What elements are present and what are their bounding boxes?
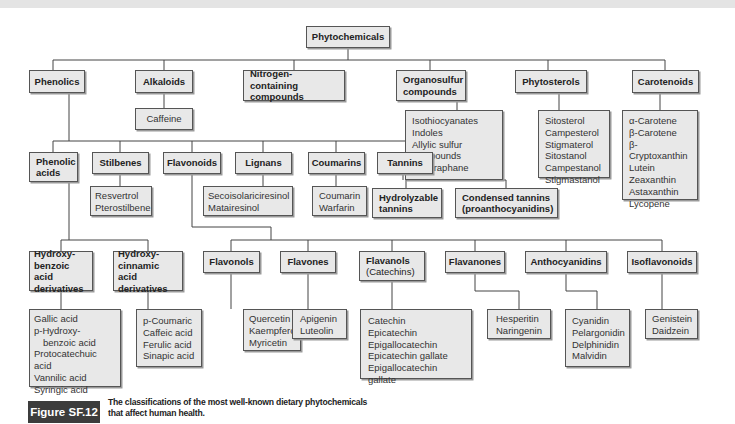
list-item: Daidzein [652,325,691,337]
node-flavonols: Flavonols [203,251,260,273]
list-item: Epigallocatechin gallate [368,362,464,386]
list-hydroxybenzoic-examples: Gallic acid p-Hydroxy- benzoic acid Prot… [29,309,121,387]
node-label: Flavonols [209,256,253,268]
list-lignan-examples: Secoisolariciresinol Matairesinol [203,186,293,216]
list-item: Myricetin [249,337,295,349]
node-label: Isoflavonoids [631,256,692,268]
list-anthocyanidin-examples: Cyanidin Pelargonidin Delphinidin Malvid… [565,309,630,367]
node-label-line: derivatives [118,283,178,295]
list-item: Pelargonidin [572,327,623,339]
node-coumarins: Coumarins [308,152,365,174]
list-item: Sitosterol [545,115,603,127]
list-item: Malvidin [572,350,623,362]
node-label: Anthocyanidins [530,256,601,268]
list-item: Isothiocyanates [412,115,496,127]
node-alkaloids: Alkaloids [135,70,193,93]
node-flavonoids: Flavonoids [163,152,221,174]
list-item: Campestanol [545,162,603,174]
node-anthocyanidins: Anthocyanidins [525,251,607,273]
list-item: Lutein [629,162,691,174]
list-item: Delphinidin [572,339,623,351]
node-phytochemicals: Phytochemicals [306,26,390,48]
node-phenolics: Phenolics [29,70,85,93]
list-item: p-Hydroxy- [34,325,116,337]
node-label-line: Condensed tannins [462,192,551,204]
list-item: Cyanidin [572,315,623,327]
node-label: Alkaloids [143,76,185,88]
list-item: p-Coumaric [143,315,195,327]
node-isoflavonoids: Isoflavonoids [627,251,697,273]
node-label: Carotenoids [638,76,693,88]
list-item: Quercetin [249,313,295,325]
list-item: Caffeine [146,113,181,125]
list-item: Gallic acid [34,313,116,325]
list-item: Indoles [412,127,496,139]
list-item: Epigallocatechin [368,339,464,351]
node-label-line: acids [36,167,71,179]
node-label: Lignans [245,157,281,169]
list-item: β-Carotene [629,127,691,139]
node-label: Flavones [287,256,328,268]
node-lignans: Lignans [235,152,292,174]
list-stilbene-examples: Resvertrol Pterostilbene [90,186,152,216]
list-phytosterol-examples: Sitosterol Campesterol Stigmaterol Sitos… [538,110,610,178]
node-label: Flavanones [449,256,501,268]
list-item: Zeaxanthin [629,174,691,186]
list-item: Apigenin [300,313,339,325]
list-item: Sinapic acid [143,350,195,362]
node-hydroxycinnamic-acid-derivatives: Hydroxy- cinnamic acid derivatives [113,251,183,291]
node-label: Flavonoids [167,157,217,169]
node-label: Phenolics [35,76,80,88]
node-phytosterols: Phytosterols [515,70,587,93]
list-item: Astaxanthin [629,186,691,198]
node-label: Tannins [387,157,423,169]
figure-label: Figure SF.12 [28,401,100,423]
list-item: Ferulic acid [143,339,195,351]
list-item: β-Cryptoxanthin [629,139,691,163]
node-hydroxybenzoic-acid-derivatives: Hydroxy- benzoic acid derivatives [29,251,93,291]
node-sublabel: (Catechins) [366,266,418,278]
list-item: Epicatechin [368,327,464,339]
list-item: Stigmastanol [545,174,603,186]
figure-caption: The classifications of the most well-kno… [108,397,368,419]
list-item: Catechin [368,315,464,327]
node-label-line: cinnamic acid [118,260,178,283]
list-item: Secoisolariciresinol [208,190,288,202]
list-flavanone-examples: Hesperitin Naringenin [487,309,551,339]
list-item: Pterostilbene [95,202,147,214]
node-label-line: Hydroxy- [34,248,88,260]
list-item: Sitostanol [545,150,603,162]
node-label: Phytochemicals [312,31,384,43]
node-label-line: Flavanols [366,255,418,267]
node-carotenoids: Carotenoids [632,70,699,93]
node-label-line: Phenolic [36,156,71,168]
node-label-line: compounds [250,91,338,103]
node-stilbenes: Stilbenes [92,152,149,174]
list-item: Syringic acid [34,384,116,396]
list-item: Naringenin [496,325,542,337]
list-item: Kaempferol [249,325,295,337]
list-item: Lycopene [629,198,691,210]
node-label-line: tannins [379,203,435,215]
list-item: Epicatechin gallate [368,350,464,362]
list-flavanol-examples: Catechin Epicatechin Epigallocatechin Ep… [360,309,472,379]
list-item: Allylic sulfur [412,139,496,151]
node-label-line: Nitrogen-containing [250,68,338,91]
node-label-line: benzoic acid [34,260,88,283]
list-coumarin-examples: Coumarin Warfarin [312,186,367,216]
list-hydroxycinnamic-examples: p-Coumaric Caffeic acid Ferulic acid Sin… [136,309,202,367]
list-item: Protocatechuic acid [34,348,116,372]
node-tannins: Tannins [377,152,433,174]
list-isoflavonoid-examples: Genistein Daidzein [645,309,698,339]
node-label: Coumarins [312,157,362,169]
node-flavones: Flavones [280,251,336,273]
node-organosulfur-compounds: Organosulfur compounds [396,70,466,101]
node-phenolic-acids: Phenolic acids [29,152,78,182]
list-item: benzoic acid [34,337,116,349]
list-item: Resvertrol [95,190,147,202]
node-label-line: Organosulfur [403,74,459,86]
node-nitrogen-containing-compounds: Nitrogen-containing compounds [243,70,345,101]
node-label-line: compounds [403,86,459,98]
list-carotenoid-examples: α-Carotene β-Carotene β-Cryptoxanthin Lu… [622,110,698,200]
list-item: Genistein [652,313,691,325]
